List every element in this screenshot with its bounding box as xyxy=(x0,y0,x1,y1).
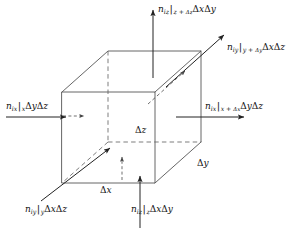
dimension-label-dx: Δx xyxy=(100,185,112,195)
cube-bottom-right-edge xyxy=(155,142,201,183)
dimension-label-dy: Δy xyxy=(197,158,209,168)
figure-canvas: niz|z + ΔzΔxΔy n_iz|_{z+Δz} ΔxΔy niy|y +… xyxy=(0,0,295,234)
control-volume-drawing xyxy=(0,0,295,234)
flux-label-back: niy|y + ΔyΔxΔz xyxy=(227,42,285,53)
dimension-label-dz: Δz xyxy=(135,125,146,135)
cube-bottom-left-edge xyxy=(62,142,108,183)
flux-label-bottom: niz|zΔxΔy xyxy=(131,204,173,215)
cube-top-face-edge xyxy=(62,51,201,92)
flux-label-left: nix|xΔyΔz xyxy=(6,101,48,112)
flux-label-top: niz|z + ΔzΔxΔy xyxy=(158,4,216,15)
flux-label-front: niy|yΔxΔz xyxy=(25,204,67,215)
cube-front-face-edge xyxy=(62,92,155,183)
flux-arrow-back xyxy=(166,35,224,87)
interior-axis-indicator-y-icon xyxy=(148,71,185,104)
flux-label-right: nix|x + ΔxΔyΔz xyxy=(205,101,263,112)
